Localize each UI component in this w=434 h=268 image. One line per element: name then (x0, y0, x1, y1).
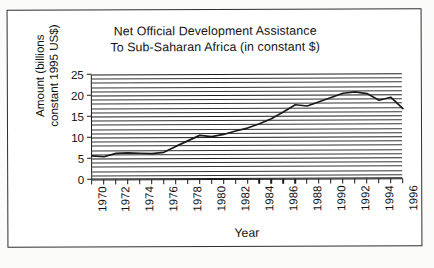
x-axis-tick-mark (330, 179, 331, 184)
y-axis-tick-label: 5 (78, 152, 85, 165)
x-axis-tick-label: 1988 (311, 186, 323, 211)
x-axis-tick-mark (366, 178, 367, 183)
x-axis-tick-label: 1972 (120, 186, 132, 211)
x-axis-tick-mark (127, 179, 128, 184)
x-axis-tick-labels: 1970197219741976197819801982198419861988… (91, 185, 402, 226)
x-axis-tick-label: 1984 (263, 186, 275, 211)
x-axis-tick-mark (139, 179, 140, 184)
x-axis-tick-mark (175, 179, 176, 184)
x-axis-tick-mark (103, 179, 104, 184)
x-axis-tick-label: 1990 (335, 185, 347, 210)
x-axis-tick-mark (390, 178, 391, 183)
x-axis-tick-mark (247, 179, 248, 184)
chart-border: Net Official Development Assistance To S… (7, 8, 423, 248)
x-axis-tick-mark (271, 179, 272, 184)
x-axis-title: Year (91, 225, 402, 240)
x-axis-tick-mark (402, 178, 403, 183)
x-axis-tick-mark (187, 179, 188, 184)
x-axis-tick-label: 1994 (383, 185, 395, 210)
x-axis-tick-label: 1992 (359, 185, 371, 210)
data-series-line (92, 73, 403, 179)
x-axis-tick-label: 1982 (239, 186, 251, 211)
x-axis-tick-mark (163, 179, 164, 184)
x-axis-tick-label: 1980 (215, 186, 227, 211)
x-axis-tick-mark (318, 179, 319, 184)
x-axis-tick-label: 1970 (96, 186, 108, 211)
x-axis-tick-mark (342, 179, 343, 184)
x-axis-tick-label: 1974 (144, 186, 156, 211)
chart-title: Net Official Development Assistance To S… (8, 23, 423, 56)
x-axis-tick-mark (259, 179, 260, 184)
y-axis-tick-label: 10 (71, 131, 84, 144)
chart-title-line-2: To Sub-Saharan Africa (in constant $) (8, 39, 423, 56)
x-axis-tick-mark (115, 179, 116, 184)
plot-area (91, 73, 402, 179)
x-axis-tick-mark (235, 179, 236, 184)
y-axis-title: Amount (billions constant 1995 US$) (33, 10, 60, 142)
x-axis-tick-mark (223, 179, 224, 184)
x-axis-tick-label: 1978 (191, 186, 203, 211)
x-axis-tick-label: 1996 (407, 185, 419, 210)
y-axis-tick-label: 20 (71, 89, 84, 102)
chart-title-line-1: Net Official Development Assistance (8, 23, 423, 40)
y-axis-tick-label: 0 (78, 173, 85, 186)
y-axis-tick-label: 15 (71, 110, 84, 123)
x-axis-tick-label: 1986 (287, 186, 299, 211)
x-axis-tick-mark (306, 179, 307, 184)
x-axis-tick-mark (378, 178, 379, 183)
x-axis-tick-mark (295, 179, 296, 184)
y-axis-tick-label: 25 (71, 68, 84, 81)
figure: Net Official Development Assistance To S… (0, 0, 434, 268)
x-axis-tick-mark (283, 179, 284, 184)
x-axis-tick-mark (199, 179, 200, 184)
y-axis-tick-labels: 0510152025 (58, 74, 88, 179)
x-axis-tick-mark (354, 178, 355, 183)
x-axis-tick-mark (91, 179, 92, 184)
y-axis-title-line-1: Amount (billions (33, 10, 47, 142)
x-axis-tick-label: 1976 (167, 186, 179, 211)
x-axis-tick-mark (151, 179, 152, 184)
x-axis-tick-marks (91, 178, 402, 185)
x-axis-tick-mark (211, 179, 212, 184)
